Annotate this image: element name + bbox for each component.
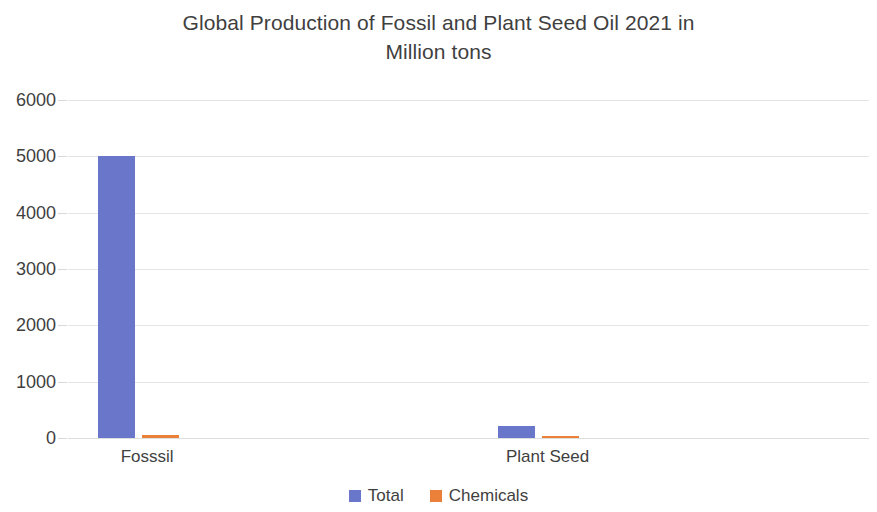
bar-chemicals-plant-seed[interactable] <box>542 436 579 438</box>
bar-total-fosssil[interactable] <box>98 156 135 438</box>
y-tick-mark <box>58 213 67 214</box>
legend-swatch-icon <box>349 490 361 502</box>
legend-item-chemicals[interactable]: Chemicals <box>430 486 528 506</box>
legend-label: Total <box>368 486 404 506</box>
chart-container: Global Production of Fossil and Plant Se… <box>0 0 877 512</box>
chart-legend: TotalChemicals <box>0 486 877 506</box>
y-tick-label: 6000 <box>0 91 56 109</box>
legend-label: Chemicals <box>449 486 528 506</box>
x-axis: FosssilPlant Seed <box>68 446 869 472</box>
chart-title: Global Production of Fossil and Plant Se… <box>0 8 877 66</box>
x-category-label: Plant Seed <box>506 446 589 468</box>
y-tick-label: 4000 <box>0 204 56 222</box>
y-tick-label: 1000 <box>0 373 56 391</box>
y-tick-mark <box>58 438 67 439</box>
y-tick-mark <box>58 325 67 326</box>
legend-item-total[interactable]: Total <box>349 486 404 506</box>
x-category-label: Fosssil <box>121 446 174 468</box>
plot-area <box>68 100 869 438</box>
legend-swatch-icon <box>430 490 442 502</box>
bars-layer <box>68 100 869 438</box>
y-tick-mark <box>58 100 67 101</box>
y-tick-mark <box>58 156 67 157</box>
y-tick-mark <box>58 382 67 383</box>
y-tick-label: 5000 <box>0 147 56 165</box>
y-tick-label: 3000 <box>0 260 56 278</box>
y-axis: 0100020003000400050006000 <box>0 100 56 438</box>
bar-chemicals-fosssil[interactable] <box>142 435 179 438</box>
y-tick-mark <box>58 269 67 270</box>
bar-total-plant-seed[interactable] <box>498 426 535 438</box>
gridline <box>68 438 869 439</box>
y-tick-label: 2000 <box>0 316 56 334</box>
y-tick-label: 0 <box>0 429 56 447</box>
